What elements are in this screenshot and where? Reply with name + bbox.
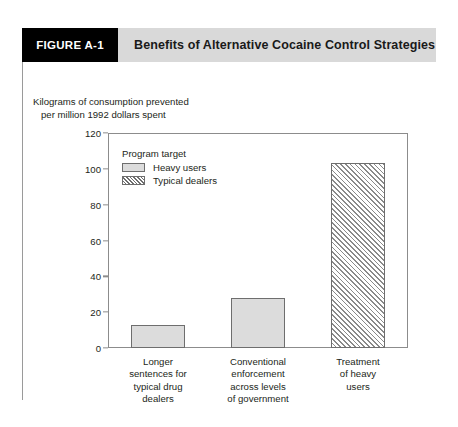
y-axis-tick-mark: [103, 347, 108, 348]
y-axis-tick-label: 60: [90, 235, 101, 246]
y-axis-tick-label: 20: [90, 307, 101, 318]
legend-entry-heavy-users: Heavy users: [122, 162, 217, 173]
bar: [131, 325, 185, 348]
y-axis-tick-label: 80: [90, 199, 101, 210]
legend-label: Typical dealers: [153, 175, 217, 186]
x-axis-category-label: Treatment of heavy users: [308, 356, 408, 393]
bar: [331, 163, 385, 348]
y-axis-tick-labels: 020406080100120: [78, 0, 101, 427]
y-axis-tick-mark: [103, 132, 108, 133]
y-axis-tick-label: 100: [85, 163, 101, 174]
legend-label: Heavy users: [153, 162, 206, 173]
y-axis-tick-label: 120: [85, 128, 101, 139]
chart-legend: Program target Heavy users Typical deale…: [122, 148, 217, 188]
legend-swatch-solid-icon: [122, 163, 145, 172]
bar: [231, 298, 285, 348]
y-axis-tick-label: 0: [96, 343, 101, 354]
x-axis-category-label: Conventional enforcement across levels o…: [208, 356, 308, 406]
y-axis-tick-mark: [103, 312, 108, 313]
x-axis-category-label: Longer sentences for typical drug dealer…: [108, 356, 208, 406]
chart-plot-area: 020406080100120 Program target Heavy use…: [0, 0, 458, 427]
y-axis-tick-mark: [103, 276, 108, 277]
legend-swatch-hatched-icon: [122, 176, 145, 185]
y-axis-tick-mark: [103, 240, 108, 241]
y-axis-tick-label: 40: [90, 271, 101, 282]
legend-entry-typical-dealers: Typical dealers: [122, 175, 217, 186]
y-axis-tick-mark: [103, 204, 108, 205]
legend-title: Program target: [122, 148, 217, 159]
y-axis-tick-mark: [103, 168, 108, 169]
